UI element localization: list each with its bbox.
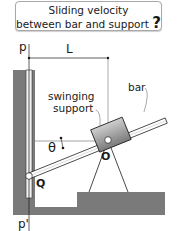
- pivot-O: [105, 137, 112, 144]
- label-p: p: [19, 40, 27, 54]
- label-L: L: [66, 42, 73, 56]
- label-support: support: [53, 102, 93, 114]
- label-bar: bar: [128, 81, 146, 93]
- mechanism-diagram: p p' L swinging support bar θ Q O: [0, 0, 177, 231]
- label-p-prime: p': [18, 217, 29, 231]
- angle-marker: [60, 137, 65, 150]
- support-leader: [96, 110, 100, 126]
- pivot-Q: [26, 173, 33, 180]
- label-O: O: [101, 150, 110, 163]
- label-theta: θ: [48, 140, 56, 155]
- label-swinging: swinging: [48, 90, 95, 102]
- label-Q: Q: [36, 177, 45, 190]
